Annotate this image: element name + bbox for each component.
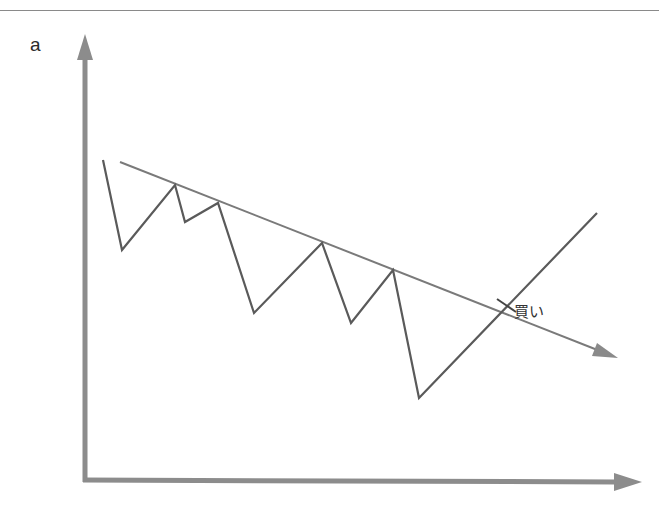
y-axis [77, 34, 93, 482]
y-axis-arrow-icon [77, 34, 93, 60]
trendline-arrow-icon [592, 343, 618, 358]
x-axis [83, 473, 642, 491]
buy-annotation: 買い [514, 300, 544, 321]
resistance-trendline [120, 162, 618, 358]
trendline-diagram [0, 0, 659, 527]
x-axis-arrow-icon [614, 473, 642, 491]
price-line [103, 160, 597, 398]
